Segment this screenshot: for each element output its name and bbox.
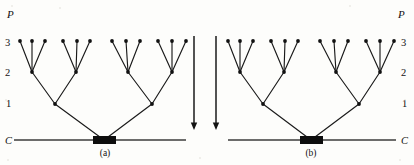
leaf-node-6 bbox=[318, 39, 322, 43]
speckle-3 bbox=[349, 5, 350, 6]
node-level2-2 bbox=[126, 70, 130, 74]
figure-container: P321C(a) P321C(b) bbox=[0, 0, 414, 165]
leaf-node-0 bbox=[18, 39, 22, 43]
level-label-c-b: C bbox=[401, 135, 409, 146]
leaf-node-11 bbox=[184, 39, 188, 43]
node-level2-0 bbox=[238, 70, 242, 74]
node-level2-1 bbox=[282, 70, 286, 74]
panel-caption-a: (a) bbox=[100, 148, 111, 159]
leaf-node-11 bbox=[392, 39, 396, 43]
level-label-1-a: 1 bbox=[6, 98, 11, 109]
panel-caption-b: (b) bbox=[305, 148, 316, 159]
leaf-node-0 bbox=[226, 39, 230, 43]
node-level2-3 bbox=[378, 70, 382, 74]
leaf-node-3 bbox=[269, 39, 273, 43]
tree-diagram-figure: P321C(a) P321C(b) bbox=[0, 0, 414, 165]
level-label-3-a: 3 bbox=[5, 37, 10, 48]
leaf-node-4 bbox=[283, 39, 287, 43]
leaf-node-3 bbox=[61, 39, 65, 43]
leaf-node-4 bbox=[75, 39, 79, 43]
level-label-2-a: 2 bbox=[5, 67, 10, 78]
speckle-5 bbox=[11, 5, 12, 6]
node-level1-0 bbox=[261, 102, 265, 106]
node-level1-1 bbox=[150, 102, 154, 106]
level-label-2-b: 2 bbox=[401, 67, 406, 78]
level-label-c-a: C bbox=[5, 135, 13, 146]
leaf-node-9 bbox=[156, 39, 160, 43]
level-label-3-b: 3 bbox=[401, 37, 406, 48]
leaf-node-9 bbox=[364, 39, 368, 43]
axis-label-p-a: P bbox=[6, 8, 14, 20]
base-block-b bbox=[300, 136, 323, 144]
speckle-2 bbox=[59, 7, 60, 8]
leaf-node-6 bbox=[110, 39, 114, 43]
leaf-node-8 bbox=[138, 39, 142, 43]
leaf-node-8 bbox=[346, 39, 350, 43]
leaf-node-2 bbox=[43, 39, 47, 43]
node-level1-0 bbox=[53, 102, 57, 106]
leaf-node-2 bbox=[251, 39, 255, 43]
node-level1-1 bbox=[357, 102, 361, 106]
leaf-node-7 bbox=[124, 39, 128, 43]
speckle-0 bbox=[7, 159, 8, 160]
leaf-node-10 bbox=[170, 39, 174, 43]
leaf-node-7 bbox=[332, 39, 336, 43]
leaf-node-10 bbox=[378, 39, 382, 43]
node-level2-0 bbox=[30, 70, 34, 74]
speckle-1 bbox=[399, 159, 400, 160]
leaf-node-1 bbox=[30, 39, 34, 43]
leaf-node-5 bbox=[88, 39, 92, 43]
axis-label-p-b: P bbox=[397, 8, 405, 20]
speckle-7 bbox=[5, 99, 6, 100]
node-level2-2 bbox=[334, 70, 338, 74]
leaf-node-1 bbox=[238, 39, 242, 43]
node-level2-1 bbox=[74, 70, 78, 74]
node-level2-3 bbox=[170, 70, 174, 74]
leaf-node-5 bbox=[296, 39, 300, 43]
speckle-6 bbox=[404, 99, 405, 100]
speckle-4 bbox=[199, 157, 200, 158]
base-block-a bbox=[93, 136, 116, 144]
